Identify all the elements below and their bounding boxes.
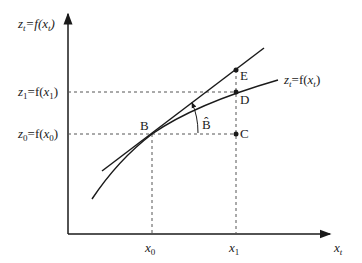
x0-label: x0 [144, 240, 156, 257]
tangent-line [102, 48, 264, 171]
z1-label: z1=f(x1) [17, 84, 58, 101]
label-E: E [240, 68, 248, 83]
point-D [234, 90, 239, 95]
label-D: D [240, 92, 249, 107]
function-curve [92, 80, 278, 199]
z0-label: z0=f(x0) [17, 126, 58, 143]
point-C [234, 132, 239, 137]
angle-arc [192, 103, 198, 133]
x-axis-label: xt [333, 240, 343, 257]
point-E [234, 68, 239, 73]
label-C: C [240, 126, 249, 141]
x1-label: x1 [228, 240, 239, 257]
angle-label: B̂ [202, 117, 211, 132]
curve-label: zt=f(xt) [283, 72, 320, 89]
label-B: B [140, 118, 149, 133]
y-axis-label: zt=f(xt) [17, 16, 55, 33]
diagram-canvas: E D C B B̂ zt=f(xt) z1=f(x1) z0=f(x0) x0… [0, 0, 362, 263]
